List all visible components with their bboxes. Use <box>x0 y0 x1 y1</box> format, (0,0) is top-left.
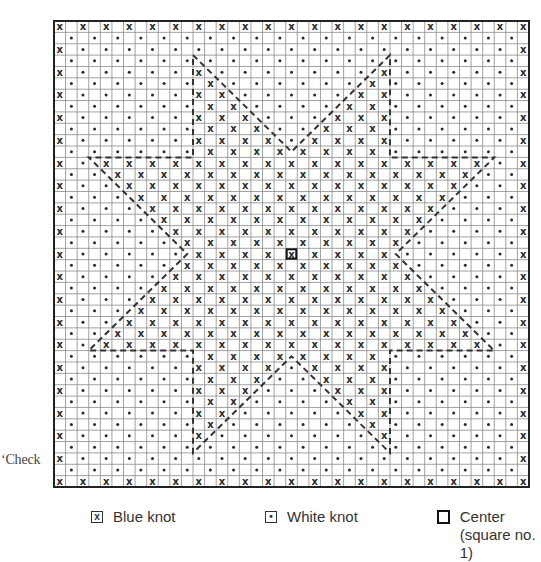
white-knot-mark <box>487 468 490 471</box>
blue-knot-mark: x <box>242 476 249 487</box>
white-knot-mark <box>174 457 177 460</box>
white-knot-mark <box>70 468 73 471</box>
blue-knot-mark: x <box>254 146 261 157</box>
blue-knot-mark: x <box>138 169 145 180</box>
blue-knot-mark: x <box>219 226 226 237</box>
legend-blue-knot-label: Blue knot <box>113 508 176 526</box>
white-knot-mark <box>487 446 490 449</box>
white-knot-mark <box>510 378 513 381</box>
blue-knot-mark: x <box>369 78 376 89</box>
blue-knot-mark: x <box>254 260 261 271</box>
blue-knot-mark: x <box>335 226 342 237</box>
white-knot-mark <box>186 423 189 426</box>
blue-knot-mark: x <box>358 180 365 191</box>
blue-knot-mark: x <box>207 396 214 407</box>
white-knot-mark <box>151 230 154 233</box>
blue-knot-mark: x <box>149 158 156 169</box>
blue-knot-mark: x <box>439 169 446 180</box>
white-knot-mark <box>406 71 409 74</box>
white-knot-mark <box>267 116 270 119</box>
white-knot-mark <box>93 423 96 426</box>
white-knot-mark <box>325 400 328 403</box>
white-knot-mark <box>105 275 108 278</box>
blue-knot-mark: x <box>242 385 249 396</box>
white-knot-mark <box>128 93 131 96</box>
white-knot-mark <box>116 105 119 108</box>
white-knot-mark <box>487 378 490 381</box>
blue-knot-mark: x <box>404 317 411 328</box>
white-knot-mark <box>174 116 177 119</box>
white-knot-mark <box>417 59 420 62</box>
white-knot-mark <box>197 457 200 460</box>
blue-knot-mark: x <box>311 180 318 191</box>
white-knot-mark <box>302 378 305 381</box>
white-knot-mark <box>383 457 386 460</box>
white-knot-mark <box>487 423 490 426</box>
white-knot-mark <box>475 184 478 187</box>
blue-knot-mark: x <box>520 249 527 260</box>
blue-knot-mark: x <box>57 226 64 237</box>
blue-knot-mark: x <box>427 476 434 487</box>
blue-knot-mark: x <box>346 283 353 294</box>
white-knot-mark <box>487 127 490 130</box>
blue-knot-mark: x <box>404 271 411 282</box>
white-knot-mark <box>128 389 131 392</box>
blue-knot-mark: x <box>277 328 284 339</box>
white-knot-mark <box>429 275 432 278</box>
white-knot-mark <box>487 309 490 312</box>
blue-knot-mark: x <box>358 112 365 123</box>
white-knot-mark <box>441 37 444 40</box>
white-knot-mark <box>278 37 281 40</box>
blue-knot-mark: x <box>369 419 376 430</box>
blue-knot-mark: x <box>381 271 388 282</box>
blue-knot-mark: x <box>416 192 423 203</box>
white-knot-mark <box>360 434 363 437</box>
blue-knot-mark: x <box>335 21 342 32</box>
white-knot-mark <box>163 150 166 153</box>
white-knot-mark <box>475 116 478 119</box>
white-knot-mark <box>336 412 339 415</box>
white-knot-mark <box>128 275 131 278</box>
blue-knot-mark: x <box>427 158 434 169</box>
blue-knot-mark: x <box>207 305 214 316</box>
white-knot-mark <box>93 196 96 199</box>
white-knot-mark <box>487 355 490 358</box>
white-knot-mark <box>510 355 513 358</box>
blue-knot-mark: x <box>323 146 330 157</box>
white-knot-mark <box>441 218 444 221</box>
blue-knot-mark: x <box>381 112 388 123</box>
blue-knot-mark: x <box>358 249 365 260</box>
white-knot-mark <box>464 82 467 85</box>
white-knot-mark <box>70 37 73 40</box>
white-knot-mark <box>464 468 467 471</box>
blue-knot-mark: x <box>474 339 481 350</box>
white-knot-mark <box>70 59 73 62</box>
white-knot-mark <box>70 309 73 312</box>
blue-knot-mark: x <box>311 226 318 237</box>
white-knot-mark <box>163 468 166 471</box>
blue-knot-mark: x <box>369 328 376 339</box>
white-knot-mark <box>93 218 96 221</box>
blue-knot-mark: x <box>172 180 179 191</box>
blue-knot-mark: x <box>381 226 388 237</box>
white-knot-mark <box>278 59 281 62</box>
blue-knot-mark: x <box>265 271 272 282</box>
blue-knot-mark: x <box>311 362 318 373</box>
white-knot-mark <box>487 218 490 221</box>
white-knot-mark <box>475 48 478 51</box>
blue-knot-mark: x <box>323 260 330 271</box>
blue-knot-mark: x <box>369 214 376 225</box>
blue-knot-mark: x <box>288 294 295 305</box>
white-knot-mark <box>417 127 420 130</box>
white-knot-mark <box>232 423 235 426</box>
blue-knot-mark: x <box>450 158 457 169</box>
white-knot-mark <box>186 37 189 40</box>
blue-knot-mark: x <box>57 67 64 78</box>
white-knot-mark <box>116 446 119 449</box>
white-knot-mark <box>116 355 119 358</box>
white-knot-mark <box>70 378 73 381</box>
blue-knot-mark: x <box>172 476 179 487</box>
white-knot-mark <box>487 59 490 62</box>
white-knot-mark <box>464 378 467 381</box>
white-knot-mark <box>105 230 108 233</box>
